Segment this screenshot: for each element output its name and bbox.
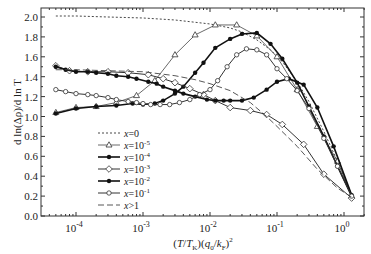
- axes: 0.00.20.40.60.81.01.21.41.61.82.010-410-…: [24, 8, 364, 234]
- legend-item: x=0: [98, 128, 139, 139]
- series-x-1e-2: [54, 65, 354, 198]
- series-x-1: [56, 70, 352, 197]
- legend-label: x=10-2: [123, 175, 150, 187]
- y-tick-label: 1.4: [24, 71, 38, 83]
- legend-item: x=10-3: [98, 163, 150, 175]
- y-tick-label: 0.6: [24, 150, 38, 162]
- legend-label: x>1: [123, 200, 139, 211]
- x-axis-label: (T/TK)(q0/kF)2: [173, 236, 233, 252]
- legend-label: x=10-1: [123, 187, 150, 199]
- legend-item: x>1: [98, 200, 139, 211]
- series-x-1e-1: [54, 47, 354, 199]
- y-tick-label: 2.0: [24, 11, 38, 23]
- line-chart: 0.00.20.40.60.81.01.21.41.61.82.010-410-…: [0, 0, 371, 254]
- series-x-1e-4: [54, 31, 354, 199]
- y-tick-label: 1.6: [24, 51, 38, 63]
- legend: x=0x=10-5x=10-4x=10-3x=10-2x=10-1x>1: [98, 128, 150, 211]
- legend-label: x=0: [123, 128, 139, 139]
- legend-label: x=10-3: [123, 163, 150, 175]
- legend-item: x=10-5: [98, 139, 150, 151]
- y-axis-label: d ln(Δρ)/d ln T: [11, 79, 24, 145]
- x-tick-label: 10-1: [266, 220, 284, 234]
- y-tick-label: 0.8: [24, 130, 38, 142]
- x-tick-label: 100: [335, 220, 350, 234]
- legend-item: x=10-1: [98, 187, 150, 199]
- series-layer: [53, 16, 355, 201]
- y-tick-label: 0.4: [24, 170, 38, 182]
- y-tick-label: 1.8: [24, 31, 38, 43]
- y-tick-label: 1.2: [24, 91, 38, 103]
- x-tick-label: 10-4: [65, 220, 83, 234]
- y-tick-label: 1.0: [24, 111, 38, 123]
- x-tick-label: 10-2: [199, 220, 217, 234]
- legend-item: x=10-4: [98, 151, 150, 163]
- legend-label: x=10-4: [123, 151, 150, 163]
- legend-item: x=10-2: [98, 175, 150, 187]
- y-tick-label: 0.0: [24, 210, 38, 222]
- y-tick-label: 0.2: [24, 190, 38, 202]
- plot-frame: [41, 8, 364, 216]
- series-x-1e-3: [53, 62, 355, 201]
- legend-label: x=10-5: [123, 139, 150, 151]
- x-tick-label: 10-3: [132, 220, 150, 234]
